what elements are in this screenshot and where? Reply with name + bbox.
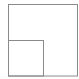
nested-squares-icon — [0, 0, 79, 79]
inner-square — [9, 41, 44, 77]
